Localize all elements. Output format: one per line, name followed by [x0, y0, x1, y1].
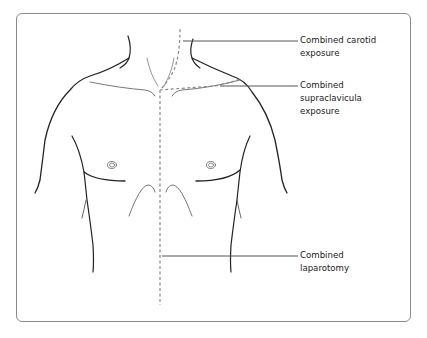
label-line: Combined: [300, 249, 349, 262]
label-supraclavicular-exposure: Combined supraclavicula exposure: [300, 79, 362, 118]
carotid-incision-dashed: [160, 29, 180, 90]
neck-right-outline: [191, 39, 200, 68]
label-carotid-exposure: Combined carotid exposure: [300, 34, 376, 60]
left-shoulder-outline: [35, 58, 129, 193]
neck-inner-left: [147, 58, 158, 86]
label-line: laparotomy: [300, 262, 349, 275]
clavicle-left: [90, 82, 155, 96]
label-line: exposure: [300, 105, 362, 118]
label-line: Combined: [300, 79, 362, 92]
left-armpit-line: [72, 136, 94, 272]
right-armpit-line: [231, 136, 251, 272]
right-flank-line: [237, 200, 241, 218]
right-nipple: [207, 162, 216, 169]
costal-margin-left: [129, 185, 155, 216]
label-laparotomy: Combined laparotomy: [300, 249, 349, 275]
right-pectoral-line: [196, 170, 240, 181]
left-nipple: [108, 162, 117, 169]
right-nipple-inner: [209, 163, 214, 167]
left-flank-line: [82, 200, 86, 218]
costal-margin-right: [166, 185, 192, 216]
left-pectoral-line: [84, 172, 125, 181]
label-line: Combined carotid: [300, 34, 376, 47]
left-nipple-inner: [110, 163, 115, 167]
label-line: exposure: [300, 47, 376, 60]
label-line: supraclavicula: [300, 92, 362, 105]
